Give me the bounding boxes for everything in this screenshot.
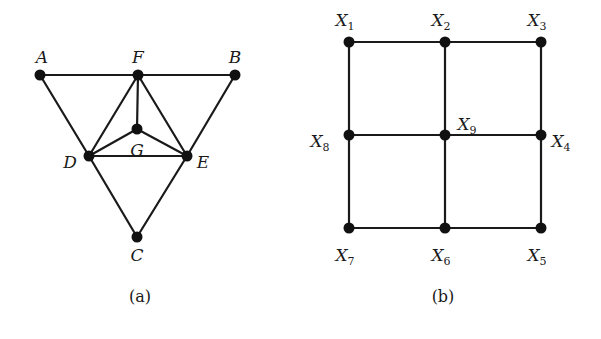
vertex-label-X1: X1 <box>333 10 354 33</box>
vertex-X5 <box>536 223 547 234</box>
vertex-label-G: G <box>130 140 144 160</box>
vertex-X3 <box>536 37 547 48</box>
vertex-label-E: E <box>196 152 210 172</box>
vertex-label-X3: X3 <box>525 10 546 33</box>
graph-a: AFBGDEC <box>34 47 241 265</box>
figure-canvas: AFBGDEC X1X2X3X4X5X6X7X8X9 (a) (b) <box>0 0 601 339</box>
vertex-label-A: A <box>34 47 48 67</box>
vertex-D <box>84 151 95 162</box>
vertex-E <box>182 151 193 162</box>
vertex-X2 <box>440 37 451 48</box>
vertex-X7 <box>344 223 355 234</box>
vertex-label-B: B <box>228 47 242 67</box>
vertex-label-C: C <box>130 245 143 265</box>
vertex-X6 <box>440 223 451 234</box>
caption-b: (b) <box>432 287 455 306</box>
vertex-F <box>133 70 144 81</box>
vertex-X9 <box>440 130 451 141</box>
vertex-G <box>132 124 143 135</box>
vertex-label-D: D <box>62 152 77 172</box>
caption-a: (a) <box>129 287 151 306</box>
vertex-label-X4: X4 <box>549 131 570 154</box>
vertex-X1 <box>344 37 355 48</box>
edge-F-G <box>137 75 138 129</box>
vertex-label-X7: X7 <box>333 245 354 268</box>
vertex-label-X9: X9 <box>455 114 476 137</box>
vertex-label-X2: X2 <box>429 10 450 33</box>
vertex-X8 <box>344 130 355 141</box>
vertex-label-X5: X5 <box>525 245 546 268</box>
vertex-X4 <box>536 130 547 141</box>
edge-B-E <box>187 75 235 156</box>
vertex-label-X8: X8 <box>308 131 329 154</box>
vertex-C <box>132 232 143 243</box>
vertex-label-X6: X6 <box>429 245 450 268</box>
graph-b: X1X2X3X4X5X6X7X8X9 <box>308 10 570 268</box>
edge-E-C <box>137 156 187 237</box>
vertex-B <box>230 70 241 81</box>
edge-A-D <box>40 75 89 156</box>
vertex-A <box>35 70 46 81</box>
edge-D-C <box>89 156 137 237</box>
vertex-label-F: F <box>131 47 145 67</box>
